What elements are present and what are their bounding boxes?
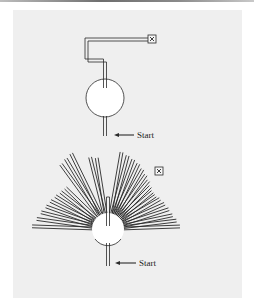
boxed-x-icon bbox=[155, 167, 163, 175]
bottom-diagram bbox=[32, 152, 180, 266]
top-start-stem bbox=[104, 116, 107, 136]
bottom-circle-chamber bbox=[92, 213, 124, 245]
bottom-start-stem bbox=[107, 243, 110, 266]
boxed-x-icon bbox=[148, 35, 156, 43]
bottom-start-arrow bbox=[115, 261, 136, 265]
figure-drawing bbox=[0, 0, 254, 308]
top-path-outer bbox=[85, 38, 148, 88]
top-start-label: Start bbox=[137, 131, 154, 140]
top-diagram bbox=[85, 35, 156, 137]
top-circle-chamber bbox=[86, 79, 124, 117]
bottom-start-label: Start bbox=[139, 259, 156, 268]
top-start-arrow bbox=[114, 133, 134, 137]
